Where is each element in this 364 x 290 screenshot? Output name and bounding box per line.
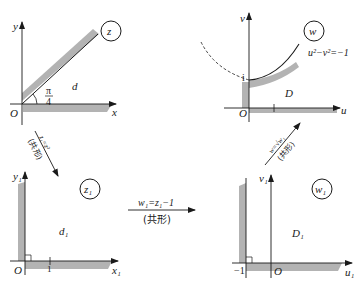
right-angle-mark [25, 255, 31, 261]
mapping-formula: w₁=z₁−1 [138, 197, 174, 208]
shaded-boundary-u [249, 108, 337, 113]
shaded-hyperbola [249, 62, 299, 88]
conformal-map-diagram: y x O d π 4 z v u O i D u²−v²=−1 w 1 [0, 0, 364, 290]
arrow-z1-to-w1: w₁=z₁−1 (共形) [128, 197, 195, 225]
shaded-boundary-ray [22, 29, 99, 101]
shaded-boundary-horiz [246, 263, 342, 271]
hyperbola-label: u²−v²=−1 [308, 47, 349, 58]
shaded-boundary-vert [239, 183, 246, 263]
region-label: D [284, 87, 293, 99]
angle-denominator: 4 [46, 96, 51, 107]
origin-label: O [274, 265, 282, 277]
region-label: D₁ [291, 227, 304, 239]
shaded-boundary-x1 [25, 261, 112, 269]
panel-w: v u O i D u²−v²=−1 w [201, 12, 349, 122]
shaded-boundary-x [23, 104, 112, 112]
x-axis-label: x [111, 106, 117, 118]
panel-w1: v₁ u₁ O −1 D₁ w₁ [232, 172, 355, 278]
boundary-ray [22, 34, 98, 104]
panel-z1: 1 y₁ x₁ O d₁ z₁ [10, 170, 121, 276]
mapping-note: (共形) [143, 214, 171, 225]
tick-neg1-label: −1 [234, 265, 245, 276]
origin-label: O [10, 107, 18, 119]
region-label: d [72, 80, 78, 92]
shaded-boundary-v [242, 82, 249, 108]
plane-label: w₁ [315, 183, 326, 195]
plane-label: z [106, 25, 112, 37]
arrow-w1-to-w: w=√w₁ (共形) [265, 123, 300, 165]
y1-axis-label: y₁ [12, 170, 22, 182]
u-axis-label: u [341, 104, 347, 116]
v-axis-label: v [240, 12, 245, 24]
origin-label: O [239, 107, 247, 119]
u1-axis-label: u₁ [345, 266, 355, 278]
panel-z: y x O d π 4 z [10, 20, 121, 125]
v1-axis-label: v₁ [259, 172, 268, 184]
tick-1-label: 1 [47, 264, 52, 274]
angle-arc [33, 94, 37, 104]
y-axis-label: y [12, 20, 18, 32]
arrow-z-to-z1: z₁=z² (共形) [26, 131, 58, 176]
angle-numerator: π [46, 85, 51, 96]
right-angle-mark [246, 257, 252, 263]
shaded-boundary-y1 [18, 182, 25, 261]
x1-axis-label: x₁ [111, 264, 121, 276]
tick-i-label: i [242, 72, 245, 83]
origin-label: O [14, 264, 22, 276]
plane-label: z₁ [83, 183, 92, 195]
region-label: d₁ [59, 225, 69, 237]
plane-label: w [309, 25, 317, 37]
